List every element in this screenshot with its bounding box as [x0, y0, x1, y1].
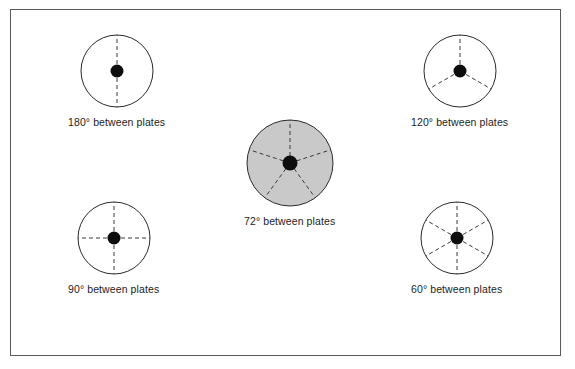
plate-label-60: 60° between plates — [411, 283, 502, 295]
plate-circle-180 — [79, 33, 155, 109]
plate-circle-72 — [245, 118, 335, 208]
plate-diagram-svg — [422, 33, 498, 109]
diagram-cell-90: 90° between plates — [68, 200, 159, 295]
diagram-cell-120: 120° between plates — [411, 33, 508, 128]
center-hub — [107, 232, 120, 245]
center-hub — [110, 65, 123, 78]
plate-label-180: 180° between plates — [68, 116, 165, 128]
plate-diagram-svg — [79, 33, 155, 109]
center-hub — [450, 232, 463, 245]
diagram-cell-180: 180° between plates — [68, 33, 165, 128]
figure-border-frame: 180° between plates120° between plates72… — [10, 9, 561, 356]
figure-root: 180° between plates120° between plates72… — [0, 0, 575, 369]
plate-diagram-svg — [245, 118, 335, 208]
plate-label-90: 90° between plates — [68, 283, 159, 295]
center-hub — [453, 65, 466, 78]
plate-diagram-svg — [76, 200, 152, 276]
plate-label-120: 120° between plates — [411, 116, 508, 128]
diagram-cell-60: 60° between plates — [411, 200, 502, 295]
center-hub — [282, 156, 297, 171]
plate-circle-60 — [419, 200, 495, 276]
plate-diagram-svg — [419, 200, 495, 276]
diagram-cell-72: 72° between plates — [244, 118, 335, 227]
plate-circle-120 — [422, 33, 498, 109]
plate-label-72: 72° between plates — [244, 215, 335, 227]
plate-circle-90 — [76, 200, 152, 276]
